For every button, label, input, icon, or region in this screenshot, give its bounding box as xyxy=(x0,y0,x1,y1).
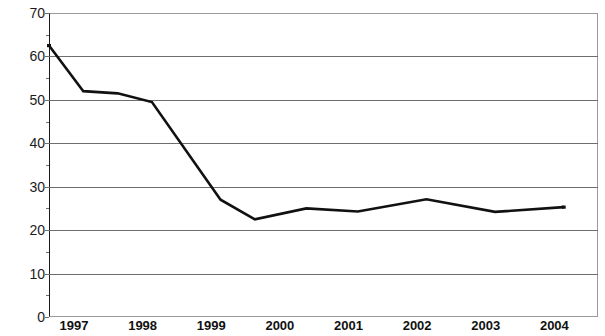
series-line xyxy=(49,13,598,317)
y-axis-tick-label: 50 xyxy=(9,93,45,107)
x-axis-tick-label: 1998 xyxy=(128,318,157,333)
x-axis-tick-label: 1997 xyxy=(60,318,89,333)
y-axis-tick-label: 0 xyxy=(9,310,45,324)
y-axis-tick-label: 20 xyxy=(9,223,45,237)
x-axis-tick-label: 2000 xyxy=(265,318,294,333)
y-axis-tick xyxy=(45,317,49,318)
x-axis-tick-label: 2001 xyxy=(334,318,363,333)
data-line xyxy=(49,46,564,220)
y-axis-tick-label: 40 xyxy=(9,136,45,150)
plot-area xyxy=(49,13,598,317)
y-axis-tick-label: 10 xyxy=(9,267,45,281)
y-axis-tick-label: 70 xyxy=(9,6,45,20)
x-axis-tick-label: 2003 xyxy=(471,318,500,333)
x-axis-tick-label: 1999 xyxy=(197,318,226,333)
x-axis-tick-label: 2002 xyxy=(403,318,432,333)
x-axis-tick-label: 2004 xyxy=(540,318,569,333)
line-chart: 010203040506070 199719981999200020012002… xyxy=(0,0,605,336)
y-axis-tick-label: 30 xyxy=(9,180,45,194)
data-point-marker xyxy=(47,44,51,47)
y-axis-tick-label: 60 xyxy=(9,49,45,63)
data-point-marker xyxy=(562,206,566,209)
